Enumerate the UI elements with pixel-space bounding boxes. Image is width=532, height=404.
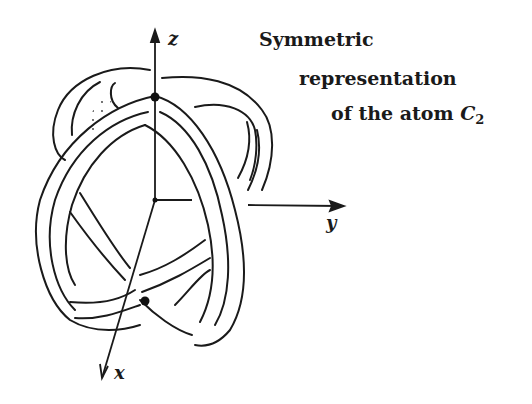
- back-right-loop: [162, 77, 272, 190]
- bottom-atom-node: [141, 297, 150, 306]
- origin-node: [153, 198, 158, 203]
- x-axis-label: x: [114, 362, 125, 383]
- y-axis: [248, 205, 340, 206]
- lower-crossing-ribbons: [70, 193, 210, 335]
- atom-subscript: 2: [475, 112, 484, 127]
- caption-line-1: Symmetric: [259, 28, 374, 50]
- y-axis-arrowhead: [330, 201, 344, 211]
- front-right-band: [145, 96, 244, 346]
- caption-line-3-prefix: of the atom: [331, 102, 460, 124]
- c2-atom-diagram: z y x Symmetric representation of the at…: [0, 0, 532, 404]
- z-axis-label: z: [168, 28, 178, 49]
- z-axis-arrowhead: [151, 30, 159, 42]
- y-axis-label: y: [326, 212, 336, 233]
- back-left-loop: [53, 68, 150, 160]
- top-atom-node: [151, 93, 160, 102]
- atom-symbol: C: [460, 102, 475, 124]
- ribbon-loops-drawing: [0, 0, 532, 404]
- caption-line-2: representation: [299, 67, 457, 89]
- x-axis: [102, 200, 155, 378]
- caption-line-3: of the atom C2: [331, 102, 484, 127]
